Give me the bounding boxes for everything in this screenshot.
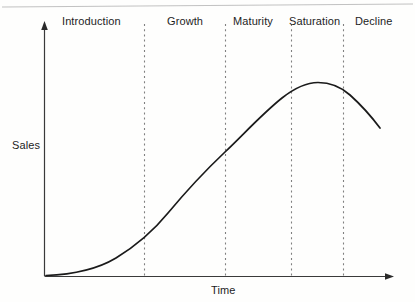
stage-label-saturation: Saturation <box>289 15 340 27</box>
sales-curve <box>46 83 380 276</box>
page-top-rule <box>2 4 413 7</box>
product-life-cycle-chart: Introduction Growth Maturity Saturation … <box>0 0 415 302</box>
stage-label-introduction: Introduction <box>62 15 121 27</box>
y-axis <box>41 21 48 276</box>
x-axis-arrowhead <box>385 273 394 280</box>
stage-label-decline: Decline <box>355 15 392 27</box>
x-axis <box>45 273 395 280</box>
x-axis-title: Time <box>211 284 235 296</box>
stage-label-maturity: Maturity <box>233 15 273 27</box>
stage-label-growth: Growth <box>167 15 203 27</box>
y-axis-arrowhead <box>41 21 48 30</box>
y-axis-title: Sales <box>12 139 40 151</box>
stage-dividers <box>145 24 344 276</box>
chart-canvas <box>0 0 415 302</box>
